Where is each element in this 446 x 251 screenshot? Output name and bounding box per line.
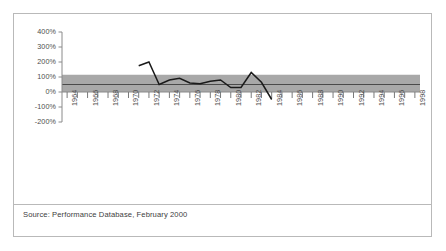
x-axis-tick-label: 1986: [295, 90, 304, 106]
x-axis-tick-label: 1982: [254, 90, 263, 106]
source-note: Source: Performance Database, February 2…: [23, 210, 187, 219]
x-axis-tick-label: 1990: [336, 90, 345, 106]
y-axis-tick-label: 400%: [14, 27, 56, 36]
y-axis-tick-label: 0%: [14, 87, 56, 96]
x-axis-tick-label: 1964: [70, 90, 79, 106]
x-axis-tick-label: 1994: [377, 90, 386, 106]
x-axis-tick-label: 1978: [213, 90, 222, 106]
y-axis-tick-label: -100%: [14, 102, 56, 111]
y-axis-tick-label: 100%: [14, 72, 56, 81]
x-axis-tick-label: 1970: [131, 90, 140, 106]
y-axis-tick-label: 200%: [14, 57, 56, 66]
x-axis-tick-label: 1980: [234, 90, 243, 106]
y-axis-tick-label: 300%: [14, 42, 56, 51]
figure-frame: 400%300%200%100%0%-100%-200% 19641966196…: [13, 13, 432, 237]
x-axis-tick-label: 1972: [152, 90, 161, 106]
x-axis-tick-label: 1996: [397, 90, 406, 106]
x-axis-tick-label: 1998: [418, 90, 427, 106]
x-axis-tick-label: 1974: [172, 90, 181, 106]
y-axis-tick-label: -200%: [14, 117, 56, 126]
x-axis-tick-label: 1984: [275, 90, 284, 106]
x-axis-tick-label: 1976: [193, 90, 202, 106]
x-axis-tick-label: 1968: [111, 90, 120, 106]
source-divider: [14, 204, 431, 205]
x-axis-tick-label: 1966: [91, 90, 100, 106]
x-axis-tick-label: 1988: [316, 90, 325, 106]
x-axis-tick-label: 1992: [357, 90, 366, 106]
